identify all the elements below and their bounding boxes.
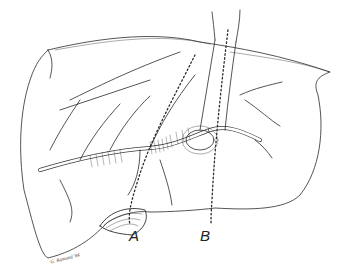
liver-illustration <box>0 0 354 275</box>
falciform-edge <box>230 52 330 72</box>
label-b: B <box>200 227 210 244</box>
liver-outline <box>21 37 330 258</box>
label-a: A <box>129 227 139 244</box>
liver-top-edge <box>48 50 52 78</box>
liver-top-hatch <box>55 38 210 50</box>
gallbladder <box>100 209 146 235</box>
